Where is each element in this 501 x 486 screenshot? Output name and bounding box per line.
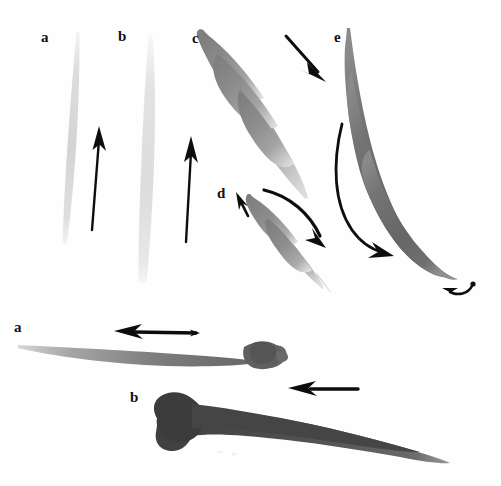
panel-top: a b c d e bbox=[0, 0, 501, 300]
panel-top-arrows bbox=[0, 0, 501, 300]
panel-bottom-arrows bbox=[0, 300, 501, 486]
stroke-label-e: e bbox=[334, 30, 341, 45]
stroke-label-bottom-a: a bbox=[14, 320, 22, 335]
stroke-label-b: b bbox=[118, 29, 126, 44]
stroke-label-c: c bbox=[192, 31, 199, 46]
stroke-label-bottom-b: b bbox=[130, 390, 138, 405]
arrow-e-sweep bbox=[336, 124, 394, 258]
stroke-label-d: d bbox=[217, 186, 225, 201]
arrow-bottom-b bbox=[288, 381, 358, 396]
stroke-label-a: a bbox=[41, 30, 49, 45]
arrow-e-hook bbox=[442, 281, 476, 296]
arrow-d-curve bbox=[264, 190, 326, 248]
arrow-d-up bbox=[236, 192, 248, 216]
arrow-bottom-a bbox=[114, 324, 200, 339]
brush-stroke-figure: a b c d e bbox=[0, 0, 501, 486]
arrow-b bbox=[184, 136, 198, 242]
panel-bottom: a b bbox=[0, 300, 501, 486]
arrow-a bbox=[92, 126, 106, 230]
arrow-c bbox=[286, 36, 326, 82]
